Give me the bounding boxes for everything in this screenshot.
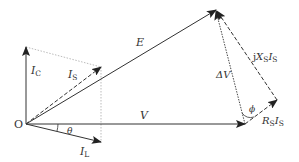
is-label: IS: [67, 68, 78, 82]
theta-label: θ: [67, 126, 73, 136]
phasor-diagram: O IC IS IL θ E V ΔV ϕ jXSIS RSIS: [0, 0, 299, 162]
jxsis-label: jXSIS: [252, 51, 277, 64]
rsis-label: RSIS: [261, 115, 284, 128]
theta-arc: [57, 124, 58, 131]
phasor-svg: O IC IS IL θ E V ΔV ϕ jXSIS RSIS: [0, 0, 299, 162]
construction-line-top: [26, 47, 101, 67]
il-label: IL: [79, 145, 89, 159]
v-label: V: [140, 109, 149, 122]
phasor-delta-v: [216, 11, 245, 124]
delta-v-label: ΔV: [215, 69, 232, 80]
ic-label: IC: [30, 64, 41, 78]
phasor-il: [26, 124, 101, 142]
origin-label: O: [14, 118, 23, 131]
e-label: E: [135, 36, 144, 49]
phasor-e: [26, 10, 216, 124]
phi-label: ϕ: [249, 104, 255, 114]
